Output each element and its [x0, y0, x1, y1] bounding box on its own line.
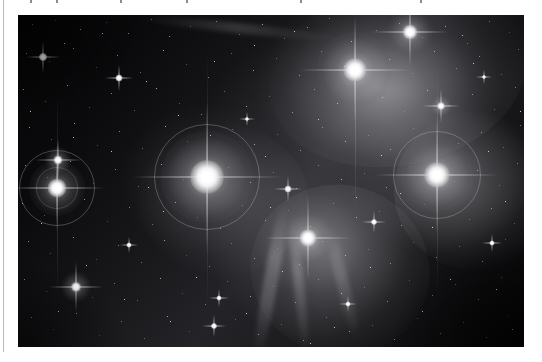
star-core [437, 102, 445, 110]
star-core [217, 296, 222, 301]
diffraction-spike-horizontal [26, 57, 60, 58]
diffraction-spike-vertical [129, 237, 130, 253]
diffraction-spike-vertical [247, 112, 248, 126]
star-glow [430, 95, 452, 117]
document-page [0, 0, 542, 362]
nebula-streak-a [251, 205, 291, 347]
star-glow [280, 210, 336, 266]
nebula-wisp-merope [228, 161, 452, 347]
star-core [403, 25, 418, 40]
diffraction-spike-horizontal [35, 160, 81, 161]
nebula-wisp-left [138, 125, 308, 275]
ccd-bleed-column-4 [57, 95, 58, 295]
star-core [245, 117, 249, 121]
diffraction-spike-vertical [374, 211, 375, 233]
diffraction-spike-vertical [308, 196, 309, 280]
star-core [211, 323, 217, 329]
diffraction-spike-vertical [492, 234, 493, 252]
star-core [127, 243, 132, 248]
diffraction-spike-vertical [43, 41, 44, 73]
diffraction-spike-horizontal [482, 243, 502, 244]
star-glow [45, 147, 71, 173]
star-core [299, 229, 317, 247]
ccd-bleed-column-1 [207, 55, 208, 305]
diffraction-spike-horizontal [476, 77, 492, 78]
diffraction-spike-vertical [219, 289, 220, 307]
clipped-glyph [420, 0, 422, 3]
diffraction-spike-vertical [288, 176, 289, 202]
star-glow [387, 15, 433, 55]
nebula-wisp-right [394, 111, 524, 271]
star-core [116, 75, 123, 82]
star-core [71, 282, 81, 292]
ccd-bleed-column-3 [355, 15, 356, 215]
nebula-wisp-upper [252, 15, 524, 190]
clipped-caption-marks [18, 0, 524, 6]
clipped-glyph [120, 0, 122, 3]
diffraction-spike-vertical [441, 89, 442, 123]
star-core [482, 75, 486, 79]
diffraction-spike-vertical [214, 315, 215, 337]
diffraction-spike-horizontal [264, 238, 352, 239]
clipped-glyph [56, 0, 58, 3]
clipped-glyph [300, 0, 302, 3]
diffraction-spike-vertical [484, 70, 485, 84]
night-sky-image [18, 15, 524, 347]
diffraction-spike-horizontal [422, 106, 460, 107]
nebula-streak-b [287, 215, 312, 347]
diffraction-spike-horizontal [202, 326, 226, 327]
page-margin-rule [3, 0, 4, 352]
vignette-overlay [18, 15, 524, 347]
diffraction-spike-horizontal [362, 222, 386, 223]
star-core [39, 53, 47, 61]
diffraction-spike-vertical [119, 65, 120, 91]
star-core [490, 241, 495, 246]
star-glow [61, 272, 91, 302]
diffraction-spike-horizontal [339, 304, 357, 305]
diffraction-spike-vertical [410, 15, 411, 67]
diffraction-spike-horizontal [209, 298, 229, 299]
star-core [54, 156, 63, 165]
starfield-bright-specks [18, 15, 19, 16]
diffraction-spike-horizontal [372, 32, 448, 33]
nebula-streak-c [322, 220, 363, 339]
diffraction-spike-horizontal [120, 245, 138, 246]
diffraction-spike-vertical [76, 262, 77, 312]
star-core [285, 186, 292, 193]
diffraction-spike-horizontal [105, 78, 133, 79]
diffraction-spike-vertical [348, 296, 349, 312]
diffraction-spike-horizontal [18, 188, 105, 189]
ccd-bleed-column-2 [437, 65, 438, 295]
diffraction-spike-horizontal [274, 189, 302, 190]
clipped-glyph [186, 0, 188, 3]
star-core [371, 219, 377, 225]
clipped-glyph [30, 0, 32, 3]
pleiades-astrophotograph [18, 15, 524, 347]
diffraction-spike-horizontal [239, 119, 255, 120]
star-core [346, 302, 351, 307]
nebula-filament-top [138, 15, 338, 43]
